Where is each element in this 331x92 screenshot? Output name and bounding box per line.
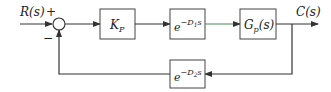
feedback-delay-block: e−D2s xyxy=(170,60,205,88)
summing-junction xyxy=(53,18,65,30)
minus-sign: − xyxy=(43,31,53,45)
svg-text:Gp(s): Gp(s) xyxy=(244,18,275,34)
input-label: R(s) xyxy=(19,5,45,19)
output-label: C(s) xyxy=(296,5,321,19)
plus-sign: + xyxy=(46,5,56,19)
forward-delay-block: e−D1s xyxy=(170,9,205,39)
block-diagram: R(s) + − KP e−D1s Gp(s) C(s) e−D2s xyxy=(0,0,331,92)
controller-block: KP xyxy=(100,9,135,39)
plant-block: Gp(s) xyxy=(240,9,276,39)
